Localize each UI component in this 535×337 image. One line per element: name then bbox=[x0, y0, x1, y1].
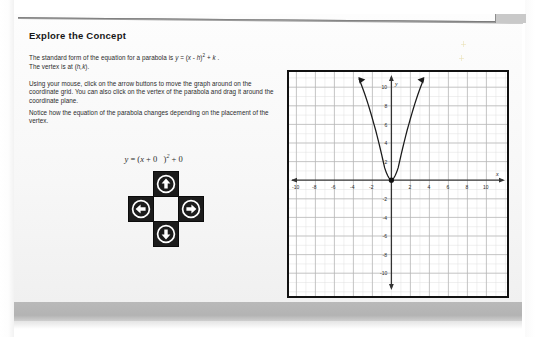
x-axis-label: x bbox=[495, 171, 499, 177]
graph-svg: x y -10 -8 -6 -4 -2 2 4 6 8 10 10 8 6 4 bbox=[289, 72, 507, 296]
page-left-edge bbox=[0, 0, 14, 337]
paragraph-usage-instructions: Using your mouse, click on the arrow but… bbox=[29, 80, 274, 105]
svg-text:-6: -6 bbox=[331, 184, 336, 190]
eq-open: = ( bbox=[178, 54, 187, 61]
scan-speck bbox=[463, 41, 464, 47]
page-right-edge bbox=[525, 0, 535, 337]
svg-text:2: 2 bbox=[385, 159, 388, 165]
y-axis-label: y bbox=[394, 81, 398, 87]
svg-text:4: 4 bbox=[428, 184, 431, 190]
vertex-text-end: ). bbox=[85, 63, 89, 70]
scanned-page: Explore the Concept The standard form of… bbox=[0, 0, 535, 337]
svg-text:-2: -2 bbox=[369, 184, 374, 190]
page-title: Explore the Concept bbox=[29, 30, 126, 41]
svg-text:6: 6 bbox=[447, 184, 450, 190]
move-up-button[interactable] bbox=[154, 172, 178, 196]
eq-period: . bbox=[216, 54, 220, 61]
svg-text:-10: -10 bbox=[380, 270, 387, 276]
move-down-button[interactable] bbox=[154, 222, 178, 246]
equation-h-term: + 0 ) bbox=[144, 154, 167, 164]
arrow-up-icon bbox=[156, 174, 176, 194]
coordinate-graph[interactable]: x y -10 -8 -6 -4 -2 2 4 6 8 10 10 8 6 4 bbox=[287, 70, 509, 298]
current-equation-display: y = (x + 0 )2 + 0 bbox=[116, 143, 183, 174]
move-left-button[interactable] bbox=[129, 197, 153, 221]
direction-pad bbox=[129, 172, 203, 246]
svg-text:-8: -8 bbox=[312, 184, 317, 190]
vertex-text: The vertex is at ( bbox=[29, 63, 77, 70]
svg-text:-4: -4 bbox=[383, 215, 388, 221]
svg-text:10: 10 bbox=[483, 184, 489, 190]
scan-artifact-block bbox=[495, 14, 526, 23]
equation-k-term: + 0 bbox=[169, 154, 182, 164]
equation-equals: = ( bbox=[128, 154, 140, 164]
svg-text:8: 8 bbox=[466, 184, 469, 190]
svg-text:-4: -4 bbox=[350, 184, 355, 190]
arrow-left-icon bbox=[131, 199, 151, 219]
paragraph-standard-form: The standard form of the equation for a … bbox=[29, 52, 274, 71]
standard-form-text: The standard form of the equation for a … bbox=[29, 54, 175, 61]
paragraph-notice: Notice how the equation of the parabola … bbox=[29, 109, 274, 126]
scan-artifact-line bbox=[18, 15, 523, 24]
vertex-point bbox=[389, 178, 394, 183]
svg-text:-10: -10 bbox=[292, 184, 299, 190]
svg-text:6: 6 bbox=[385, 122, 388, 128]
svg-text:8: 8 bbox=[385, 103, 388, 109]
svg-text:-8: -8 bbox=[383, 252, 388, 258]
page-bottom-band bbox=[14, 302, 522, 321]
move-right-button[interactable] bbox=[179, 197, 203, 221]
svg-text:-2: -2 bbox=[383, 196, 388, 202]
arrow-down-icon bbox=[156, 224, 176, 244]
svg-text:-6: -6 bbox=[383, 233, 388, 239]
page-bottom-fade bbox=[14, 321, 522, 329]
svg-text:2: 2 bbox=[409, 184, 412, 190]
scan-speck bbox=[461, 55, 462, 61]
arrow-right-icon bbox=[181, 199, 201, 219]
svg-text:4: 4 bbox=[385, 140, 388, 146]
svg-text:10: 10 bbox=[382, 84, 388, 90]
